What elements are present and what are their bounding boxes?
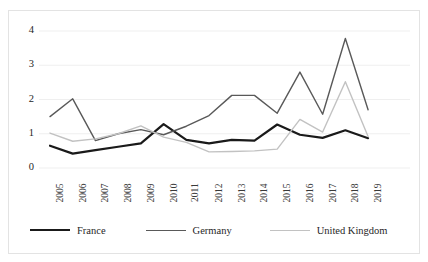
x-tick-label: 2007 <box>100 184 110 203</box>
x-tick-label: 2018 <box>350 184 360 203</box>
x-tick-label: 2017 <box>327 184 337 203</box>
y-tick-label: 1 <box>18 128 34 138</box>
x-tick-label: 2010 <box>168 184 178 203</box>
x-tick-label: 2009 <box>145 184 155 203</box>
legend-label-france: France <box>77 225 106 236</box>
line-chart: 43210 2005200620072008200920102011201220… <box>0 0 428 262</box>
chart-title <box>0 0 428 4</box>
y-tick-label: 4 <box>18 25 34 35</box>
legend-swatch-germany <box>146 230 186 231</box>
x-tick-label: 2008 <box>123 184 133 203</box>
x-tick-label: 2012 <box>214 184 224 203</box>
x-tick-label: 2013 <box>236 184 246 203</box>
x-tick-label: 2015 <box>282 184 292 203</box>
legend-swatch-france <box>30 229 70 231</box>
legend-label-united-kingdom: United Kingdom <box>317 225 388 236</box>
legend-item-germany[interactable]: Germany <box>146 225 232 236</box>
legend-swatch-united-kingdom <box>270 230 310 231</box>
y-tick-label: 2 <box>18 94 34 104</box>
chart-legend: France Germany United Kingdom <box>30 221 400 239</box>
y-tick-label: 0 <box>18 162 34 172</box>
x-tick-label: 2016 <box>304 184 314 203</box>
x-tick-label: 2014 <box>259 184 269 203</box>
y-tick-label: 3 <box>18 59 34 69</box>
x-tick-label: 2005 <box>55 184 65 203</box>
legend-item-united-kingdom[interactable]: United Kingdom <box>270 225 388 236</box>
legend-label-germany: Germany <box>193 225 232 236</box>
x-tick-label: 2019 <box>373 184 383 203</box>
x-tick-label: 2006 <box>77 184 87 203</box>
plot-frame <box>8 10 420 254</box>
x-tick-label: 2011 <box>191 183 201 202</box>
legend-item-france[interactable]: France <box>30 225 106 236</box>
